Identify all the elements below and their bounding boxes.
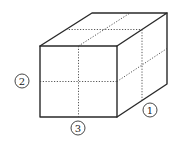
svg-text:2: 2 (19, 76, 25, 87)
label-3: 3 (71, 121, 85, 135)
right-face-edges (117, 13, 167, 117)
svg-text:1: 1 (147, 105, 153, 116)
cuboid-diagram: 2 3 1 (0, 0, 180, 148)
label-1: 1 (143, 103, 157, 117)
svg-text:3: 3 (75, 123, 81, 134)
right-horizontal-cut (117, 49, 167, 82)
label-2: 2 (15, 74, 29, 88)
